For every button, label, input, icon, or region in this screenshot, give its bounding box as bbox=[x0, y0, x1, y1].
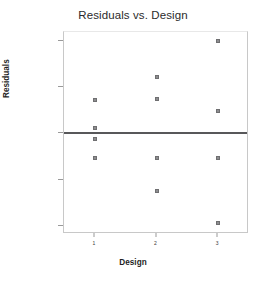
data-point bbox=[93, 137, 97, 141]
zero-reference-line bbox=[64, 132, 247, 134]
data-point bbox=[155, 75, 159, 79]
data-point bbox=[155, 156, 159, 160]
x-axis-tick-mark bbox=[155, 233, 156, 237]
x-axis-tick-label: 3 bbox=[216, 240, 219, 246]
data-point bbox=[216, 109, 220, 113]
x-axis-tick-mark bbox=[217, 233, 218, 237]
x-axis-title: Design bbox=[0, 258, 266, 267]
data-point bbox=[93, 156, 97, 160]
data-point bbox=[216, 39, 220, 43]
x-axis-tick-label: 2 bbox=[154, 240, 157, 246]
data-point bbox=[216, 221, 220, 225]
chart-title: Residuals vs. Design bbox=[0, 9, 266, 21]
data-point bbox=[155, 189, 159, 193]
residuals-vs-design-chart: Residuals vs. Design Residuals 0.9420590… bbox=[0, 0, 266, 284]
plot-area bbox=[63, 31, 248, 233]
data-point bbox=[93, 126, 97, 130]
x-axis-tick-label: 1 bbox=[92, 240, 95, 246]
data-point bbox=[216, 156, 220, 160]
data-point bbox=[155, 97, 159, 101]
x-axis-tick-mark bbox=[93, 233, 94, 237]
y-axis-title: Residuals bbox=[2, 59, 11, 98]
data-point bbox=[93, 98, 97, 102]
